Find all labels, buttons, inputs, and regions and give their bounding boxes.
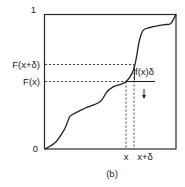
y-bottom-label: 0 [33,143,38,154]
y-top-label: 1 [31,4,36,15]
y-label-F-x-plus-delta: F(x+δ) [12,59,40,70]
figure-caption: (b) [106,168,118,179]
cdf-diagram: 1 0 F(x+δ) F(x) f(x)δ x x+δ (b) [0,0,185,187]
annotation-f-x-delta: f(x)δ [135,66,154,77]
x-label-x-plus-delta: x+δ [137,151,153,162]
x-label-x: x [124,151,129,162]
y-label-F-x: F(x) [23,76,40,87]
down-arrow-icon [142,89,146,99]
